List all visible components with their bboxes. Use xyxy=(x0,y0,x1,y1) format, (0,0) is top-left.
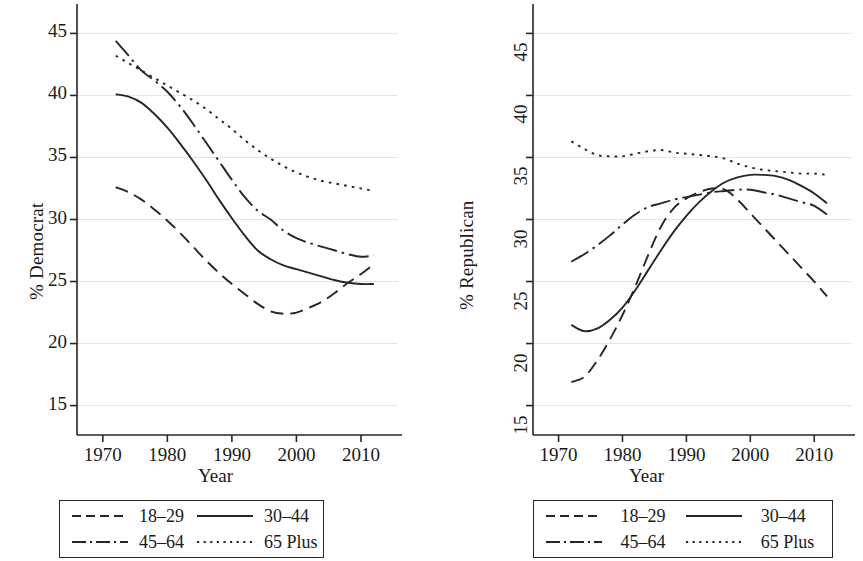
x-tick-label: 2000 xyxy=(720,444,780,466)
republican-plot-svg xyxy=(430,0,863,470)
x-axis-label-democrat: Year xyxy=(0,465,431,487)
legend-label-30-44: 30–44 xyxy=(761,507,824,526)
legend-label-30-44: 30–44 xyxy=(264,507,320,526)
y-tick-label: 20 xyxy=(27,331,67,353)
legend-key-65-plus xyxy=(195,534,255,550)
y-tick-label: 45 xyxy=(510,32,532,72)
y-tick-label: 30 xyxy=(27,207,67,229)
y-tick-label: 30 xyxy=(510,219,532,259)
x-tick-label: 1980 xyxy=(592,444,652,466)
x-tick-label: 1970 xyxy=(529,444,589,466)
legend-democrat: 18–29 30–44 45–64 65 Plus xyxy=(59,500,324,558)
y-tick-label: 35 xyxy=(510,156,532,196)
x-tick-label: 1990 xyxy=(656,444,716,466)
x-tick-label: 2000 xyxy=(266,444,326,466)
legend-key-30-44 xyxy=(195,508,255,524)
legend-key-45-64 xyxy=(70,534,130,550)
x-axis-label-republican: Year xyxy=(430,465,863,487)
x-tick-label: 1970 xyxy=(73,444,133,466)
y-tick-label: 45 xyxy=(27,20,67,42)
y-axis-label-republican: % Republican xyxy=(456,200,478,310)
legend-label-65-plus: 65 Plus xyxy=(264,533,320,552)
legend-key-65-plus xyxy=(684,534,744,550)
y-tick-label: 40 xyxy=(510,94,532,134)
y-tick-label: 20 xyxy=(510,343,532,383)
two-panel-line-chart-figure: % Democrat Year 18–29 30–44 45–64 xyxy=(0,0,863,561)
legend-label-65-plus: 65 Plus xyxy=(761,533,824,552)
x-tick-label: 2010 xyxy=(784,444,844,466)
x-tick-label: 1980 xyxy=(137,444,197,466)
x-tick-label: 1990 xyxy=(202,444,262,466)
y-tick-label: 25 xyxy=(510,281,532,321)
legend-key-30-44 xyxy=(684,508,744,524)
legend-key-18-29 xyxy=(70,508,130,524)
x-tick-label: 2010 xyxy=(331,444,391,466)
chart-panel-republican: % Republican Year 18–29 30–44 45–64 xyxy=(430,0,861,561)
y-tick-label: 25 xyxy=(27,269,67,291)
y-tick-label: 15 xyxy=(510,405,532,445)
y-tick-label: 15 xyxy=(27,393,67,415)
legend-label-18-29: 18–29 xyxy=(139,507,186,526)
legend-key-18-29 xyxy=(544,508,604,524)
y-tick-label: 40 xyxy=(27,82,67,104)
legend-label-18-29: 18–29 xyxy=(621,507,676,526)
legend-label-45-64: 45–64 xyxy=(621,533,676,552)
legend-republican: 18–29 30–44 45–64 65 Plus xyxy=(533,500,833,558)
legend-key-45-64 xyxy=(544,534,604,550)
y-tick-label: 35 xyxy=(27,144,67,166)
chart-panel-democrat: % Democrat Year 18–29 30–44 45–64 xyxy=(0,0,431,561)
legend-label-45-64: 45–64 xyxy=(139,533,186,552)
